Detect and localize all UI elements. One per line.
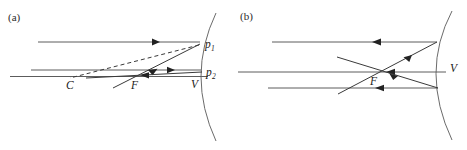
label-focus-b: F — [369, 75, 378, 87]
label-p1-subscript: 1 — [211, 44, 215, 53]
reflected-ray-a-1 — [113, 44, 200, 88]
panel-b-caption: (b) — [240, 10, 253, 23]
panel-b: (b) F V — [238, 10, 459, 140]
label-center-of-curvature-a: C — [66, 79, 74, 91]
optics-figure: (a) p 1 p 2 C F V — [0, 0, 467, 150]
label-vertex-b: V — [450, 62, 459, 74]
arrow-incident-b-1 — [372, 39, 381, 46]
label-focus-a: F — [130, 79, 139, 91]
label-p1: p — [204, 38, 211, 51]
label-vertex-a: V — [191, 78, 200, 90]
arrow-incident-a-1 — [152, 39, 160, 46]
panel-a: (a) p 1 p 2 C F V — [8, 11, 216, 141]
panel-a-caption: (a) — [8, 11, 21, 24]
reflected-ray-b-1 — [338, 42, 437, 94]
label-p2-subscript: 2 — [212, 72, 216, 81]
mirror-arc-b — [436, 11, 452, 140]
arrow-incident-a-2 — [167, 67, 175, 74]
label-p2: p — [205, 66, 212, 79]
figure-canvas: (a) p 1 p 2 C F V — [0, 0, 467, 150]
